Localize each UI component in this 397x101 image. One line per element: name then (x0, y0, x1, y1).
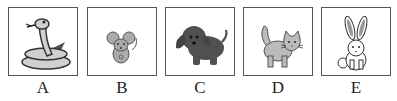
option-label-a: A (8, 78, 78, 98)
cat-icon (244, 8, 312, 75)
option-card-e[interactable] (321, 7, 391, 76)
option-card-b[interactable] (87, 7, 157, 76)
option-card-c[interactable] (165, 7, 235, 76)
dog-icon (166, 8, 234, 75)
option-label-e: E (321, 78, 391, 98)
snake-icon (9, 8, 77, 75)
option-label-c: C (165, 78, 235, 98)
rabbit-icon (322, 8, 390, 75)
option-card-d[interactable] (243, 7, 313, 76)
option-label-d: D (243, 78, 313, 98)
mouse-icon (88, 8, 156, 75)
option-card-a[interactable] (8, 7, 78, 76)
option-label-b: B (87, 78, 157, 98)
